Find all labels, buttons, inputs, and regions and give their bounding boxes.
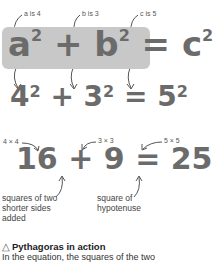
note-sum-of-squares: squares of two shorter sides added: [2, 193, 57, 223]
equals-sign: =: [124, 80, 147, 113]
value-c-squared: 25: [171, 141, 213, 176]
label-a-is-4: a is 4: [24, 10, 41, 17]
caption-body: In the equation, the squares of the two: [2, 252, 155, 262]
exp-a: 2: [29, 82, 40, 101]
formula-substituted: 42 + 32 = 52: [10, 80, 188, 113]
exp-b: 2: [103, 82, 114, 101]
var-b: b: [94, 24, 118, 64]
exp-c: 2: [177, 82, 188, 101]
value-b: 3: [84, 80, 103, 113]
exp-b: 2: [119, 26, 130, 45]
label-c-is-5: c is 5: [140, 10, 156, 17]
exp-a: 2: [31, 26, 42, 45]
label-b-is-3: b is 3: [82, 10, 99, 17]
value-a-squared: 16: [16, 141, 58, 176]
caption-title: △Pythagoras in action: [2, 241, 105, 252]
formula-evaluated: 16 + 9 = 25: [16, 141, 212, 176]
value-c: 5: [157, 80, 176, 113]
triangle-icon: △: [2, 241, 10, 252]
var-c: c: [182, 24, 202, 64]
plus-sign: +: [68, 141, 93, 176]
plus-sign: +: [50, 80, 73, 113]
exp-c: 2: [202, 26, 213, 45]
formula-general: a2 + b2 = c2: [8, 24, 213, 64]
note-hypotenuse: square of hypotenuse: [97, 193, 141, 213]
equals-sign: =: [135, 141, 160, 176]
var-a: a: [8, 24, 31, 64]
value-a: 4: [10, 80, 29, 113]
equals-sign: =: [142, 24, 171, 64]
value-b-squared: 9: [104, 141, 125, 176]
plus-sign: +: [54, 24, 83, 64]
